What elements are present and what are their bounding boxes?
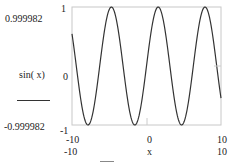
x-tick-left: -10: [66, 134, 79, 145]
y-axis-label-underline: [17, 100, 50, 101]
y-axis-label: sin( x): [19, 69, 45, 80]
x-max-readout: 10: [217, 146, 227, 157]
y-tick-mid: 0: [63, 71, 68, 82]
y-min-readout: -0.999982: [4, 121, 45, 132]
format-handle[interactable]: [100, 161, 114, 162]
y-tick-top: 1: [61, 3, 66, 14]
x-min-readout: -10: [64, 146, 77, 157]
x-tick-right: 10: [217, 134, 227, 145]
y-max-readout: 0.999982: [5, 13, 43, 24]
plot-area: [0, 0, 232, 168]
sine-curve: [72, 7, 221, 125]
x-tick-mid: 0: [147, 134, 152, 145]
x-axis-label: x: [147, 146, 152, 157]
